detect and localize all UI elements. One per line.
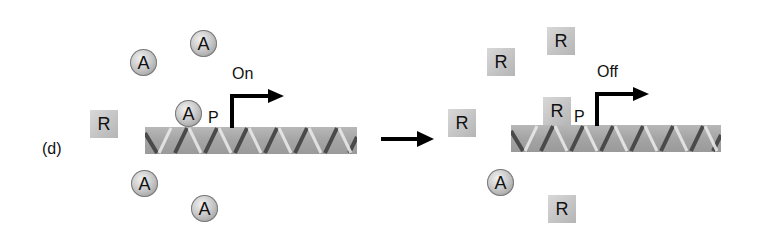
activator-label: A xyxy=(138,175,150,193)
repressor-label: R xyxy=(456,114,469,132)
activator-label: A xyxy=(494,174,506,192)
activator-protein: A xyxy=(190,30,217,57)
activator-label: A xyxy=(182,105,194,123)
activator-label: A xyxy=(197,35,209,53)
repressor-label: R xyxy=(556,200,569,218)
repressor-label: R xyxy=(551,102,564,120)
transcription-start-arrow xyxy=(228,86,288,130)
repressor-protein: R xyxy=(548,195,576,223)
dna-helix xyxy=(145,127,357,154)
activator-protein: A xyxy=(130,49,157,76)
repressor-label: R xyxy=(98,115,111,133)
transition-arrow-icon xyxy=(381,130,435,148)
dna-helix xyxy=(511,125,721,152)
repressor-label: R xyxy=(555,32,568,50)
promoter-label: P xyxy=(208,110,219,126)
activator-protein: A xyxy=(487,169,514,196)
state-label-off: Off xyxy=(597,64,618,80)
panel-label: (d) xyxy=(42,141,62,157)
activator-protein: A xyxy=(131,170,158,197)
state-label-on: On xyxy=(232,66,253,82)
activator-label: A xyxy=(137,54,149,72)
repressor-label: R xyxy=(495,53,508,71)
bound-activator-protein: A xyxy=(175,100,202,127)
promoter-label: P xyxy=(574,109,585,125)
repressor-protein: R xyxy=(448,109,476,137)
repressor-protein: R xyxy=(487,48,515,76)
bound-repressor-protein: R xyxy=(543,97,571,125)
repressor-protein: R xyxy=(90,110,118,138)
activator-protein: A xyxy=(191,195,218,222)
transcription-start-arrow xyxy=(593,84,653,128)
activator-label: A xyxy=(198,200,210,218)
repressor-protein: R xyxy=(547,27,575,55)
